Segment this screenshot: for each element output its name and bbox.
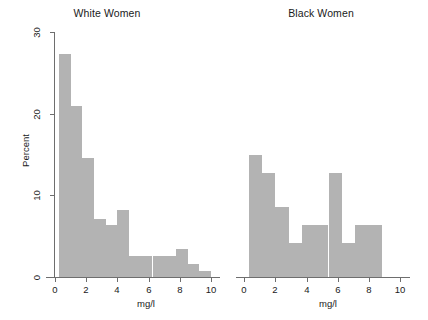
x-tick-label-6: 6: [139, 284, 159, 295]
bar: [82, 158, 94, 277]
x-tick-label-10: 10: [390, 284, 410, 295]
bar: [117, 210, 129, 277]
bar: [329, 173, 342, 278]
y-tick-label-10: 10: [31, 185, 42, 207]
x-tick-8: [369, 278, 370, 282]
x-tick-label-2: 2: [265, 284, 285, 295]
y-axis-title: Percent: [20, 121, 31, 181]
y-tick-30: [50, 32, 54, 33]
plot-area-white-women: 0 10 20 30 Percent 0 2 4 6 8 10 mg/l: [0, 0, 214, 320]
x-tick-label-0: 0: [234, 284, 254, 295]
bar: [59, 54, 71, 277]
bar: [141, 256, 153, 277]
figure-root: White Women 0 10 20 30 Percent 0 2 4: [0, 0, 428, 320]
y-tick-label-20: 20: [31, 104, 42, 126]
bar: [106, 225, 118, 277]
bar: [153, 256, 165, 277]
bar: [275, 207, 288, 277]
panel-white-women: White Women 0 10 20 30 Percent 0 2 4: [0, 0, 214, 320]
x-axis-line: [236, 277, 410, 278]
x-tick-0: [55, 278, 56, 282]
x-tick-label-4: 4: [107, 284, 127, 295]
x-tick-label-8: 8: [359, 284, 379, 295]
bar: [315, 225, 328, 277]
bar: [262, 173, 275, 278]
y-tick-label-30: 30: [31, 22, 42, 44]
bar: [368, 225, 381, 277]
bar: [199, 271, 211, 278]
x-axis-line: [46, 277, 220, 278]
panel-black-women: Black Women 0 2 4 6 8 10 mg/l: [214, 0, 428, 320]
x-tick-label-8: 8: [170, 284, 190, 295]
x-tick-label-0: 0: [45, 284, 65, 295]
bar: [188, 264, 200, 277]
bar: [289, 243, 302, 277]
bar: [302, 225, 315, 277]
x-tick-2: [86, 278, 87, 282]
x-tick-0: [244, 278, 245, 282]
x-tick-label-4: 4: [297, 284, 317, 295]
y-axis-line: [54, 32, 55, 278]
x-tick-10: [400, 278, 401, 282]
x-axis-title: mg/l: [214, 298, 396, 309]
y-tick-0: [50, 277, 54, 278]
x-tick-label-2: 2: [76, 284, 96, 295]
x-tick-6: [149, 278, 150, 282]
y-tick-20: [50, 114, 54, 115]
bar: [176, 249, 188, 277]
x-tick-10: [211, 278, 212, 282]
bar: [342, 243, 355, 277]
bar: [71, 106, 83, 278]
bar: [164, 256, 176, 277]
x-tick-6: [338, 278, 339, 282]
x-tick-4: [117, 278, 118, 282]
bar: [249, 155, 262, 278]
y-tick-10: [50, 195, 54, 196]
x-axis-title: mg/l: [0, 298, 214, 309]
bar: [355, 225, 368, 277]
bar: [94, 219, 106, 277]
x-tick-4: [307, 278, 308, 282]
bar: [129, 256, 141, 277]
x-tick-8: [180, 278, 181, 282]
x-tick-2: [275, 278, 276, 282]
x-tick-label-6: 6: [328, 284, 348, 295]
y-tick-label-0: 0: [31, 267, 42, 289]
plot-area-black-women: 0 2 4 6 8 10 mg/l: [214, 0, 428, 320]
